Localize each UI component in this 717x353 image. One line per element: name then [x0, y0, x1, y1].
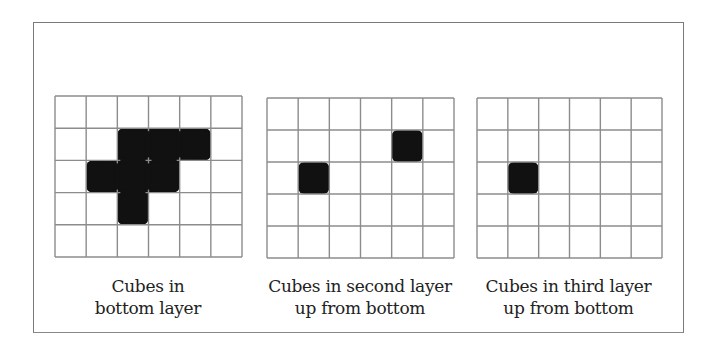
caption-line: bottom layer — [54, 297, 242, 319]
second-layer-caption: Cubes in second layer up from bottom — [250, 275, 470, 319]
caption-line: Cubes in — [54, 275, 242, 297]
bottom-layer-caption: Cubes in bottom layer — [54, 275, 242, 319]
caption-line: Cubes in second layer — [250, 275, 470, 297]
second-layer-grid — [266, 97, 455, 259]
third-layer-grid — [476, 97, 663, 259]
third-layer-caption: Cubes in third layer up from bottom — [466, 275, 671, 319]
bottom-layer-grid — [54, 95, 243, 258]
caption-line: Cubes in third layer — [466, 275, 671, 297]
caption-line: up from bottom — [250, 297, 470, 319]
caption-line: up from bottom — [466, 297, 671, 319]
